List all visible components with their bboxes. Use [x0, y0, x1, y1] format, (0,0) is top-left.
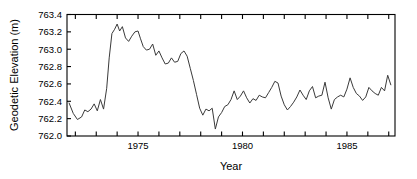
y-tick-label: 763.2: [38, 26, 62, 37]
geodetic-elevation-line-chart: 762.0762.2762.4762.6762.8763.0763.2763.4…: [0, 0, 417, 179]
y-tick-label: 762.6: [38, 78, 62, 89]
x-axis-title: Year: [220, 160, 243, 172]
x-tick-label: 1975: [127, 140, 148, 151]
y-tick-label: 763.4: [38, 9, 62, 20]
y-tick-label: 762.8: [38, 61, 62, 72]
y-axis-title: Geodetic Elevation (m): [8, 19, 20, 131]
x-tick-label: 1985: [336, 140, 357, 151]
y-tick-label: 762.2: [38, 113, 62, 124]
x-tick-label: 1980: [232, 140, 253, 151]
chart-figure: 762.0762.2762.4762.6762.8763.0763.2763.4…: [0, 0, 417, 179]
y-tick-label: 763.0: [38, 44, 62, 55]
y-tick-label: 762.0: [38, 130, 62, 141]
x-axis-tick-labels: 197519801985: [127, 140, 357, 151]
y-axis-tick-labels: 762.0762.2762.4762.6762.8763.0763.2763.4: [38, 9, 62, 142]
y-tick-label: 762.4: [38, 96, 62, 107]
plot-frame: [67, 15, 395, 137]
